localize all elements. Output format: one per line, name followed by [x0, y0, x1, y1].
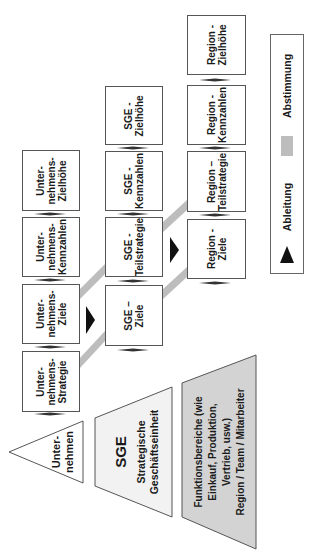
box-sge-kennzahlen: SGE - Kennzahlen — [105, 151, 163, 211]
box-label: SGE – Ziele — [123, 301, 145, 330]
pyramid-label-region: Funktionsbereiche (wie Einkauf, Produkti… — [192, 388, 248, 515]
box-sge-teilstrategie: SGE - Teilstrategie — [105, 217, 163, 277]
box-unternehmens-strategie: Unter- nehmens- Strategie — [22, 351, 80, 412]
pyramid-label-unternehmen: Unter- nehmen — [50, 431, 76, 473]
box-unternehmens-zielhoehe: Unter- nehmens- Zielhöhe — [22, 150, 80, 211]
goal-cascade-diagram: Unter- nehmens- Zielhöhe Unter- nehmens-… — [0, 0, 312, 560]
box-label: Region - Ziele — [206, 229, 228, 269]
derivation-arrow-icon — [86, 306, 95, 334]
box-label: SGE - Zielhöhe — [123, 95, 145, 136]
box-region-zielhoehe: Region - Zielhöhe — [187, 15, 246, 75]
legend: Abstimmung Ableitung — [270, 34, 304, 274]
box-label: Unter- nehmens- Zielhöhe — [35, 157, 68, 204]
box-unternehmens-kennzahlen: Unter- nehmens- Kennzahlen — [22, 217, 80, 277]
box-label: Region - Zielhöhe — [206, 24, 228, 65]
box-region-ziele: Region - Ziele — [187, 219, 246, 279]
box-label: Region – Teilstrategie — [206, 152, 228, 210]
alignment-band — [162, 200, 187, 233]
box-label: SGE - Teilstrategie — [123, 218, 145, 276]
pyramid-subtitle-sge: Strategische Geschäftseinheit — [135, 410, 161, 495]
derivation-arrow-icon — [170, 237, 179, 263]
alignment-band — [79, 264, 105, 300]
alignment-band — [79, 331, 105, 369]
box-sge-ziele: SGE – Ziele — [105, 285, 163, 346]
box-region-kennzahlen: Region - Kennzahlen — [187, 85, 246, 145]
box-label: SGE - Kennzahlen — [123, 153, 145, 209]
alignment-band — [162, 267, 187, 300]
box-label: Unter- nehmens- Strategie — [35, 358, 68, 405]
box-unternehmens-ziele: Unter- nehmens- Ziele — [22, 284, 80, 344]
box-region-teilstrategie: Region – Teilstrategie — [187, 151, 246, 212]
legend-derivation-arrow-icon — [271, 35, 305, 275]
box-label: Unter- nehmens- Kennzahlen — [35, 219, 68, 275]
pyramid-title-sge: SGE — [113, 436, 129, 468]
box-sge-zielhoehe: SGE - Zielhöhe — [105, 86, 163, 145]
box-label: Region - Kennzahlen — [206, 87, 228, 143]
box-label: Unter- nehmens- Ziele — [35, 290, 68, 337]
